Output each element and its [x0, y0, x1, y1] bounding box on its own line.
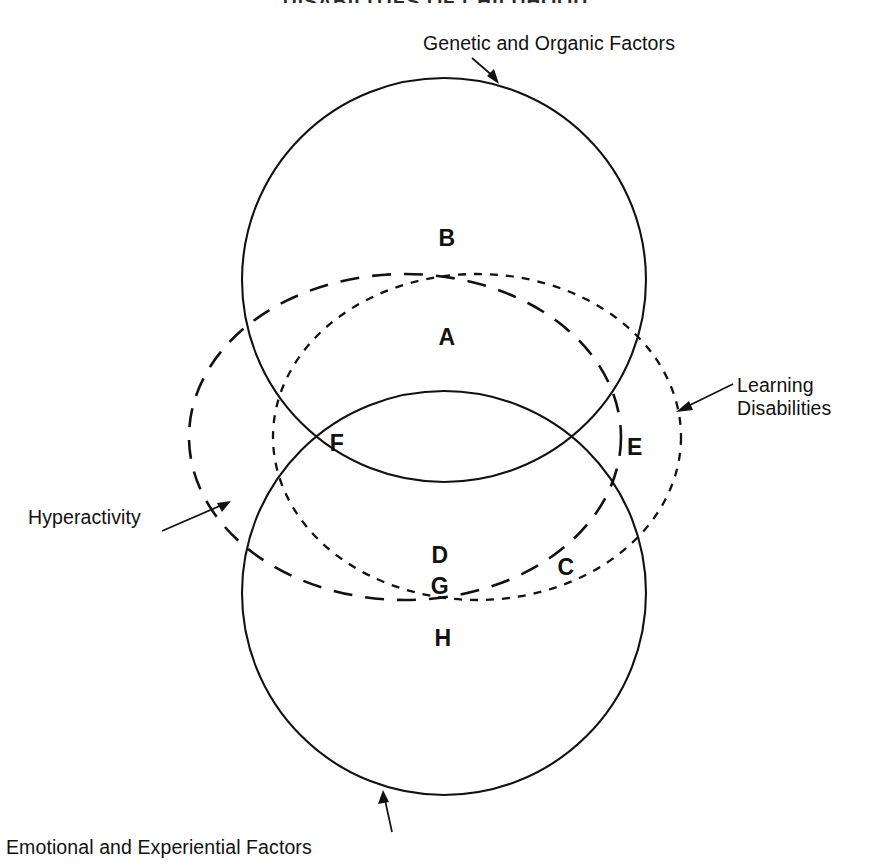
- region-label-b: B: [438, 227, 455, 250]
- hyperactivity-dashed-ellipse: [189, 274, 621, 600]
- region-label-d: D: [431, 544, 448, 567]
- diagram-canvas: [0, 0, 871, 866]
- emotional-experiential-arrowhead: [378, 790, 389, 804]
- region-label-e: E: [627, 436, 643, 459]
- callout-hyperactivity: Hyperactivity: [28, 506, 141, 529]
- callout-emotional-experiential-factors: Emotional and Experiential Factors: [6, 836, 312, 859]
- callout-genetic-organic-factors: Genetic and Organic Factors: [423, 32, 675, 55]
- learning-disabilities-leader: [676, 384, 733, 412]
- region-label-a: A: [438, 326, 455, 349]
- hyperactivity-leader: [162, 501, 231, 531]
- region-label-c: C: [557, 556, 574, 579]
- upper-solid-circle-genetic-organic-factors: [242, 78, 646, 482]
- region-label-g: G: [431, 575, 449, 598]
- callout-learning-disabilities-line1: Learning: [737, 374, 831, 397]
- genetic-organic-arrowhead: [487, 69, 499, 84]
- venn-diagram-figure: DISABILITIES OF CHILDHOOD: [0, 0, 871, 866]
- emotional-experiential-leader: [378, 790, 392, 832]
- callout-learning-disabilities-line2: Disabilities: [737, 397, 831, 420]
- callout-learning-disabilities: Learning Disabilities: [737, 374, 831, 419]
- region-label-h: H: [434, 627, 451, 650]
- region-label-f: F: [330, 432, 345, 455]
- hyperactivity-arrowhead: [217, 501, 231, 512]
